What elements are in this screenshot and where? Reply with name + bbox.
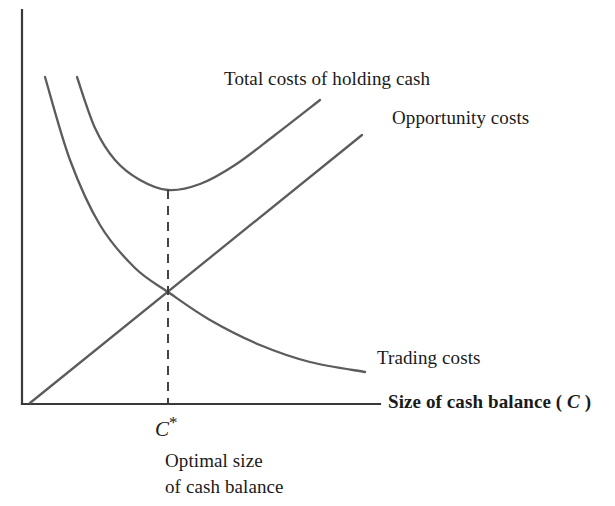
optimal-size-caption-line1: Optimal size [165, 448, 284, 474]
series-label-opportunity-costs: Opportunity costs [392, 107, 529, 129]
x-axis-label: Size of cash balance ( C ) [388, 391, 591, 413]
x-axis-label-prefix: Size of cash balance ( [388, 391, 567, 412]
series-total-costs-curve [77, 77, 320, 190]
x-axis-label-variable: C [567, 391, 580, 412]
optimal-size-caption: Optimal size of cash balance [165, 448, 284, 499]
x-axis-label-suffix: ) [580, 391, 591, 412]
c-star-variable: C [155, 417, 169, 441]
series-label-total-costs: Total costs of holding cash [224, 68, 430, 90]
optimal-point-tick-label: C* [155, 413, 178, 442]
cash-balance-cost-chart: Total costs of holding cash Opportunity … [0, 0, 615, 506]
c-star-asterisk: * [169, 413, 178, 432]
series-label-trading-costs: Trading costs [377, 347, 481, 369]
optimal-size-caption-line2: of cash balance [165, 474, 284, 500]
